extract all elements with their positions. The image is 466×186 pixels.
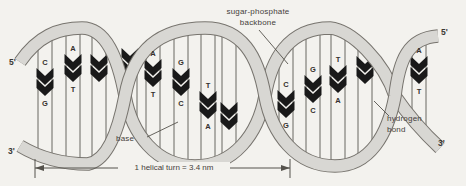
- three-prime-left-label: 3': [8, 146, 15, 156]
- base-letter-bottom: G: [42, 99, 48, 108]
- five-prime-left-label: 5': [9, 57, 16, 67]
- backbone-ribbons: [20, 28, 440, 166]
- dimension-arrow-left-icon: [35, 165, 44, 171]
- base-letter-bottom: T: [71, 85, 76, 94]
- base-leader-line: [147, 122, 178, 137]
- sugar-phosphate-backbone-label: sugar-phosphate backbone: [198, 7, 318, 28]
- helical-turn-label: 1 helical turn = 3.4 nm: [118, 162, 230, 173]
- base-letter-top: A: [70, 44, 76, 53]
- base-letter-bottom: C: [178, 99, 184, 108]
- dna-helix-figure: CGATATGCTACGGCTAAT sugar-phosphate backb…: [0, 0, 466, 186]
- base-label: base: [116, 134, 134, 145]
- base-letter-bottom: T: [417, 87, 422, 96]
- base-letter-bottom: T: [151, 90, 156, 99]
- base-letter-top: C: [283, 80, 289, 89]
- base-letter-top: T: [206, 81, 211, 90]
- base-letter-top: T: [336, 55, 341, 64]
- base-letter-bottom: A: [205, 122, 211, 131]
- base-letter-bottom: G: [283, 121, 289, 130]
- base-letter-top: G: [178, 58, 184, 67]
- base-letter-top: A: [150, 49, 156, 58]
- base-letter-bottom: C: [310, 106, 316, 115]
- five-prime-right-label: 5': [441, 27, 448, 37]
- base-letter-top: C: [42, 58, 48, 67]
- base-letter-top: A: [416, 46, 422, 55]
- hydrogen-bond-label: hydrogen bond: [387, 114, 422, 135]
- base-letter-bottom: A: [335, 96, 341, 105]
- three-prime-right-label: 3': [438, 138, 445, 148]
- dimension-arrow-right-icon: [281, 165, 290, 171]
- backbone-ribbon-b: [20, 28, 438, 166]
- base-letter-top: G: [310, 65, 316, 74]
